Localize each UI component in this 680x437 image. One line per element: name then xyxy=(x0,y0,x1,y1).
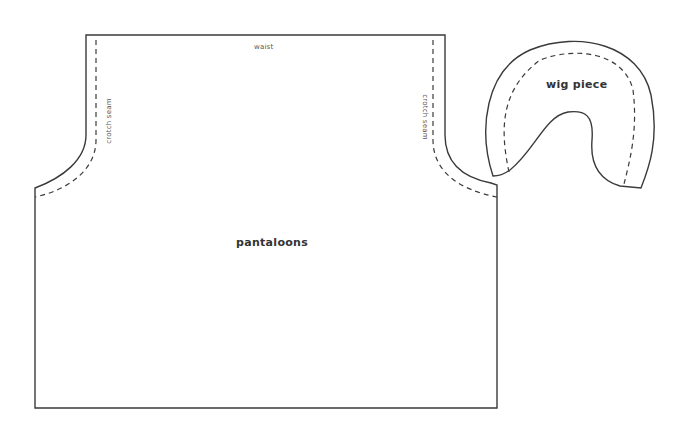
wig-piece-seam-line xyxy=(504,53,634,184)
left-crotch-seam-label: crotch seam xyxy=(105,96,113,146)
pantaloons-left-crotch-seam xyxy=(35,40,96,197)
wig-piece-label: wig piece xyxy=(546,78,607,91)
pantaloons-cut-line xyxy=(35,35,497,408)
right-crotch-seam-label: crotch seam xyxy=(421,92,429,142)
waist-label: waist xyxy=(254,43,273,51)
wig-piece xyxy=(486,41,654,188)
pattern-sheet: waist crotch seam crotch seam pantaloons… xyxy=(0,0,680,437)
pantaloons-piece xyxy=(35,35,497,408)
pantaloons-label: pantaloons xyxy=(236,236,308,249)
pattern-drawing xyxy=(0,0,680,437)
